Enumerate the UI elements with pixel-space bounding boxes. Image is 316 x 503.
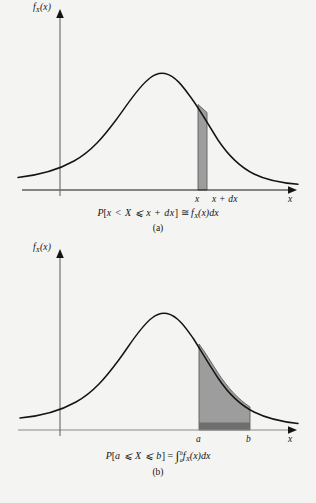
panel-b-svg: [0, 240, 316, 440]
panel-b-caption-expr: a ⩽ X ⩽ b: [115, 450, 162, 461]
panel-b-caption-relation: =: [168, 450, 174, 461]
panel-a-y-label-arg: (x): [40, 2, 51, 12]
panel-b-plot: [0, 240, 316, 440]
panel-a-caption-bracket-close: ]: [175, 207, 178, 218]
panel-b-y-axis-label: fX(x): [33, 242, 51, 253]
panel-b-tick-right: b: [246, 434, 251, 444]
pdf-figure: fX(x) x x x + dx P[x < X ⩽ x + dx] ≅ fX(…: [0, 0, 316, 503]
panel-a-x-axis-arrow: [288, 186, 297, 194]
panel-b-shaded-base: [199, 423, 250, 431]
panel-a-x-axis-label: x: [288, 194, 292, 204]
panel-b-caption: P[a ⩽ X ⩽ b] = ∫bafX(x)dx: [0, 450, 316, 463]
panel-a-y-axis-label: fX(x): [33, 2, 51, 13]
panel-a-svg: [0, 0, 316, 200]
panel-b-y-axis-arrow: [56, 249, 64, 258]
panel-a-caption: P[x < X ⩽ x + dx] ≅ fX(x)dx: [0, 207, 316, 219]
panel-b: fX(x) x a b P[a ⩽ X ⩽ b] = ∫bafX(x)dx (b…: [0, 240, 316, 503]
panel-a-caption-expr: x < X ⩽ x + dx: [107, 207, 175, 218]
panel-b-caption-integral: ∫: [176, 448, 180, 463]
panel-b-caption-rhs-arg: (x)dx: [190, 450, 211, 461]
panel-b-tick-left: a: [196, 434, 201, 444]
panel-a-y-axis-arrow: [56, 9, 64, 18]
panel-b-caption-bracket-close: ]: [162, 450, 165, 461]
panel-a-caption-relation: ≅: [181, 207, 189, 218]
panel-b-density-curve: [20, 313, 298, 423]
panel-b-x-axis-label: x: [288, 434, 292, 444]
panel-a-caption-rhs-arg: (x)dx: [198, 207, 219, 218]
panel-a-plot: [0, 0, 316, 200]
panel-a-tick-right: x + dx: [212, 194, 238, 204]
panel-b-x-axis-arrow: [288, 426, 297, 434]
panel-a: fX(x) x x x + dx P[x < X ⩽ x + dx] ≅ fX(…: [0, 0, 316, 252]
panel-a-shaded-strip: [198, 105, 207, 191]
panel-b-subcaption: (b): [0, 467, 316, 477]
panel-b-y-label-arg: (x): [40, 242, 51, 252]
panel-a-subcaption: (a): [0, 223, 316, 233]
panel-a-tick-left: x: [195, 194, 199, 204]
